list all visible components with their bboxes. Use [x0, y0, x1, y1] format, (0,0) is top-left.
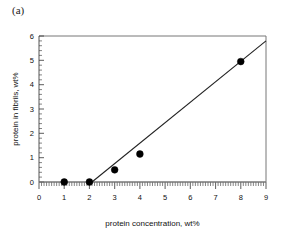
- y-axis-title: protein in fibrils, wt%: [11, 72, 20, 145]
- scatter-plot: 0 1 2 3 4 5 6 0 1 2 3 4 5 6 7 8 9 protei…: [0, 0, 292, 241]
- y-tick-label: 4: [30, 80, 34, 89]
- y-axis-ticks: [39, 36, 44, 182]
- x-tick-label: 9: [264, 193, 268, 202]
- y-tick-label: 6: [30, 32, 34, 41]
- x-tick-label: 7: [214, 193, 218, 202]
- x-tick-label: 3: [113, 193, 117, 202]
- x-axis-title: protein concentration, wt%: [105, 219, 199, 228]
- x-tick-label: 2: [87, 193, 91, 202]
- plot-frame: [39, 36, 266, 182]
- figure-panel-a: (a): [0, 0, 292, 241]
- x-tick-label: 1: [62, 193, 66, 202]
- x-axis-minor-ticks: [42, 182, 264, 186]
- x-tick-label: 4: [138, 193, 142, 202]
- data-point: [86, 179, 93, 186]
- data-point: [61, 179, 68, 186]
- x-tick-labels: 0 1 2 3 4 5 6 7 8 9: [37, 193, 268, 202]
- data-point: [237, 58, 244, 65]
- y-tick-label: 1: [30, 153, 34, 162]
- data-points: [61, 58, 244, 185]
- x-tick-label: 8: [239, 193, 243, 202]
- y-tick-label: 0: [30, 178, 34, 187]
- y-tick-labels: 0 1 2 3 4 5 6: [30, 32, 34, 187]
- y-tick-label: 3: [30, 105, 34, 114]
- x-tick-label: 0: [37, 193, 41, 202]
- data-point: [136, 151, 143, 158]
- x-tick-label: 5: [163, 193, 167, 202]
- y-tick-label: 2: [30, 129, 34, 138]
- y-tick-label: 5: [30, 56, 34, 65]
- x-tick-label: 6: [188, 193, 192, 202]
- data-point: [111, 166, 118, 173]
